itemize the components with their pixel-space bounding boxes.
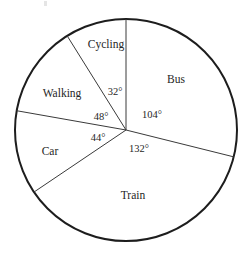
pie-slice-label-walking: Walking [43, 87, 82, 100]
pie-slice-label-bus: Bus [167, 73, 185, 85]
scan-artifact-speck [44, 1, 47, 6]
pie-chart-figure: BusTrainCarWalkingCycling 104°132°44°48°… [0, 0, 247, 258]
pie-angle-label-car: 44° [91, 132, 106, 143]
pie-chart-svg: BusTrainCarWalkingCycling 104°132°44°48°… [0, 0, 247, 258]
pie-angle-label-cycling: 32° [108, 86, 123, 97]
pie-slice-label-car: Car [42, 145, 59, 157]
pie-angle-label-walking: 48° [94, 111, 109, 122]
pie-angle-label-train: 132° [129, 143, 149, 154]
pie-slice-label-train: Train [121, 189, 146, 201]
pie-slice-label-cycling: Cycling [88, 38, 125, 51]
pie-angle-label-bus: 104° [142, 109, 162, 120]
